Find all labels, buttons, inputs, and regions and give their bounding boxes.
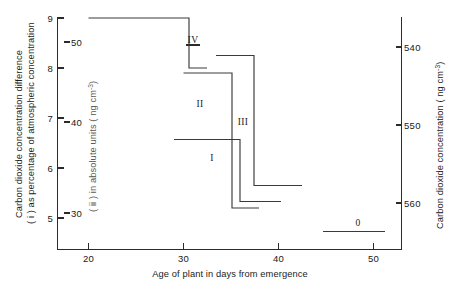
y-axis-left-primary: 9 8 7 6 5 Carbon dioxide concentration d… <box>14 13 64 250</box>
x-tick-label-40: 40 <box>273 253 284 264</box>
y-left-tick-label-8: 8 <box>47 63 53 74</box>
x-axis-title: Age of plant in days from emergence <box>152 269 307 279</box>
series-path-III <box>216 56 302 186</box>
y-left-tick-label-7: 7 <box>47 113 53 124</box>
y-axis-right: 540 550 560 Carbon dioxide concentration… <box>396 17 446 250</box>
co2-step-chart-figure: 20 30 40 50 Age of plant in days from em… <box>0 0 455 298</box>
x-tick-label-20: 20 <box>83 253 94 264</box>
x-tick-label-30: 30 <box>178 253 189 264</box>
y-axis-title-line1: Carbon dioxide concentration difference <box>14 50 24 218</box>
y-left2-tick-label-30: 30 <box>71 208 82 219</box>
series-label-0: 0 <box>355 218 360 228</box>
series-label-II: II <box>196 99 203 109</box>
x-tick-label-50: 50 <box>368 253 379 264</box>
series-label-I: I <box>210 153 214 163</box>
y-right-tick-label-560: 560 <box>404 198 421 209</box>
x-axis: 20 30 40 50 Age of plant in days from em… <box>57 243 402 279</box>
y-left2-tick-label-40: 40 <box>71 117 82 128</box>
series-path-I <box>174 140 281 202</box>
y-axis-title-line2: ( i ) as percentage of atmospheric conce… <box>26 22 36 224</box>
y-left-tick-label-5: 5 <box>47 213 53 224</box>
y-axis-right-title-text: Carbon dioxide concentration ( ng cm <box>435 71 445 229</box>
y-left-tick-label-6: 6 <box>47 163 53 174</box>
series-label-IV: IV <box>188 35 199 45</box>
y-axis-left-secondary: 50 40 30 ( ii ) in absolute units ( ng c… <box>64 37 98 219</box>
y-axis-secondary-title-suffix: ) <box>88 81 98 84</box>
y-axis-secondary-title: ( ii ) in absolute units ( ng cm-3) <box>87 81 99 212</box>
y-left-tick-label-9: 9 <box>47 13 53 24</box>
y-right-tick-label-540: 540 <box>404 42 421 53</box>
chart-canvas: 20 30 40 50 Age of plant in days from em… <box>0 0 455 298</box>
y-axis-secondary-title-text: ( ii ) in absolute units ( ng cm <box>88 90 98 212</box>
y-axis-right-title-suffix: ) <box>435 62 445 65</box>
series-path-II <box>184 73 260 208</box>
series-label-III: III <box>238 117 249 127</box>
y-right-tick-label-550: 550 <box>404 120 421 131</box>
y-left2-tick-label-50: 50 <box>71 37 82 48</box>
series-labels: IV II III I 0 <box>186 35 361 228</box>
y-axis-right-title: Carbon dioxide concentration ( ng cm-3) <box>434 62 446 229</box>
